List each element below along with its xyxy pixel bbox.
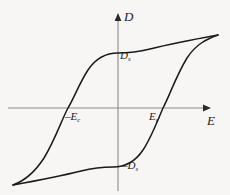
remanent-negative-label: –Ds bbox=[122, 160, 138, 171]
coercive-negative-subscript: c bbox=[77, 116, 80, 123]
d-axis-label: D bbox=[124, 10, 133, 23]
coercive-positive-label: Ec bbox=[149, 111, 159, 122]
coercive-negative-label: –Ec bbox=[65, 111, 80, 122]
plot-canvas bbox=[0, 0, 230, 195]
d-axis-arrow-icon bbox=[115, 13, 122, 21]
coercive-negative-base: –E bbox=[65, 110, 77, 122]
hysteresis-figure: D E Ds –Ds –Ec Ec bbox=[0, 0, 230, 195]
hysteresis-lower-branch bbox=[13, 35, 218, 185]
e-axis-arrow-icon bbox=[203, 105, 211, 112]
e-axis-label: E bbox=[207, 114, 215, 127]
coercive-positive-subscript: c bbox=[156, 116, 159, 123]
remanent-positive-subscript: s bbox=[128, 55, 131, 62]
remanent-negative-subscript: s bbox=[135, 165, 138, 172]
remanent-positive-base: D bbox=[120, 49, 128, 61]
coercive-positive-base: E bbox=[149, 110, 156, 122]
remanent-positive-label: Ds bbox=[120, 50, 131, 61]
remanent-negative-base: –D bbox=[122, 159, 135, 171]
